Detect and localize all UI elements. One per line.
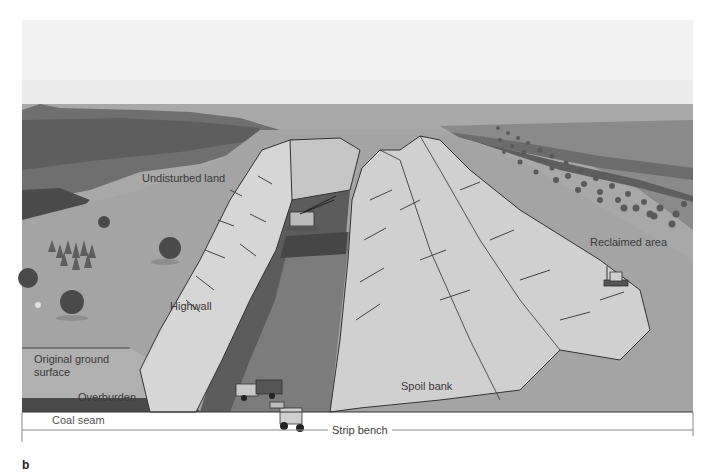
label-overburden: Overburden	[78, 391, 136, 403]
label-strip-bench: Strip bench	[332, 424, 388, 436]
strip-mining-diagram: Undisturbed land Highwall Reclaimed area…	[0, 0, 709, 476]
label-original-ground-surface-1: Original ground	[34, 353, 109, 365]
label-highwall: Highwall	[170, 300, 212, 312]
pit-coal-band	[280, 232, 348, 258]
label-spoil-bank: Spoil bank	[401, 380, 452, 392]
label-reclaimed-area: Reclaimed area	[590, 236, 667, 248]
panel-letter: b	[22, 458, 29, 472]
label-undisturbed-land: Undisturbed land	[142, 172, 225, 184]
label-original-ground-surface-2: surface	[34, 366, 70, 378]
label-coal-seam: Coal seam	[52, 414, 105, 426]
surveyor-figure	[35, 302, 41, 308]
